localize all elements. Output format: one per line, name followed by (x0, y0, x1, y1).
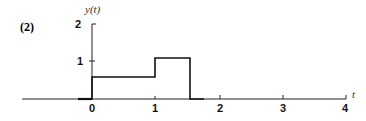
y-tick-1: 1 (77, 56, 83, 67)
y-tick-2: 2 (75, 19, 81, 30)
x-tick-0: 0 (89, 103, 95, 114)
x-tick-2: 2 (217, 103, 223, 114)
x-tick-3: 3 (280, 103, 286, 114)
signal-line (80, 58, 204, 99)
x-tick-1: 1 (152, 103, 158, 114)
chart-plot (0, 0, 366, 121)
x-tick-4: 4 (342, 103, 348, 114)
